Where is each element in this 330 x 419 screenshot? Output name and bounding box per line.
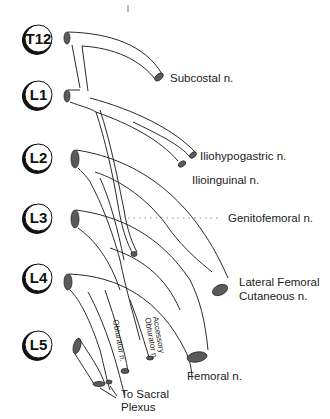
root-l3: L3 — [22, 204, 52, 234]
sacral-label-line1: To Sacral — [121, 388, 169, 400]
iliohypogastric-label: Iliohypogastric n. — [200, 150, 286, 162]
genitofemoral-label: Genitofemoral n. — [228, 212, 313, 224]
root-label: L2 — [30, 149, 48, 166]
lfcn-label-line2: Cutaneous n. — [239, 290, 307, 302]
sacral-label-line2: Plexus — [121, 401, 156, 413]
root-label: L4 — [30, 269, 48, 286]
subcostal-nerve — [64, 32, 165, 91]
obturator-label: Obturator n. — [111, 319, 127, 363]
l5-branches — [72, 337, 117, 398]
subcostal-label: Subcostal n. — [170, 72, 233, 84]
ilioinguinal-label: Ilioinguinal n. — [192, 174, 259, 186]
root-label: L1 — [30, 86, 48, 103]
root-l5: L5 — [22, 331, 52, 361]
root-label: L5 — [30, 336, 48, 353]
lumbar-plexus-diagram: T12 L1 L2 L3 L4 L5 — [0, 0, 330, 419]
femoral-label: Femoral n. — [187, 370, 242, 382]
root-l1: L1 — [22, 81, 52, 111]
root-label: T12 — [26, 30, 52, 47]
l1-branches — [64, 90, 198, 257]
root-l2: L2 — [22, 144, 52, 174]
root-l4: L4 — [22, 264, 52, 294]
lfcn-label-line1: Lateral Femoral — [239, 276, 320, 288]
top-mark — [127, 5, 129, 12]
root-t12: T12 — [22, 25, 52, 55]
root-label: L3 — [30, 209, 48, 226]
